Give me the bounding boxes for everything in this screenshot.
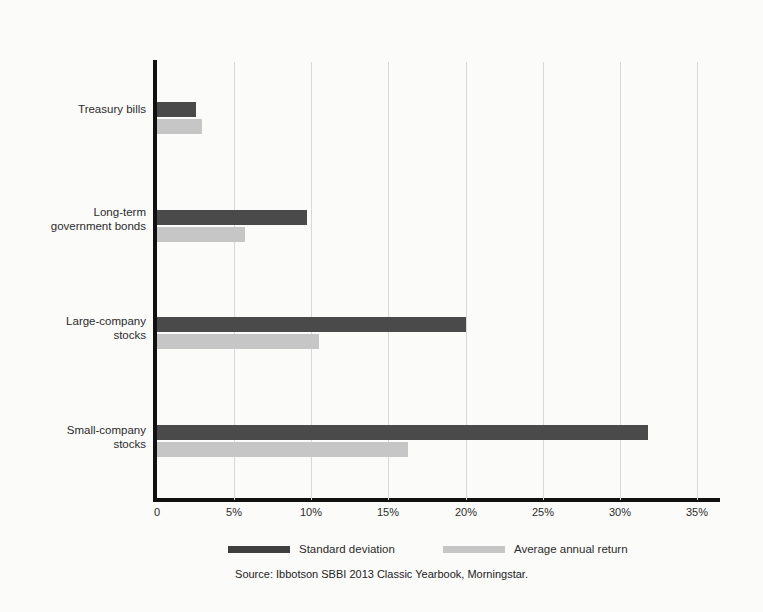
x-tick-20: 20% bbox=[455, 506, 477, 518]
category-label-treasury-bills: Treasury bills bbox=[26, 102, 146, 116]
legend-swatch-average-annual-return bbox=[443, 546, 505, 553]
x-tick-25: 25% bbox=[532, 506, 554, 518]
legend-label-standard-deviation: Standard deviation bbox=[299, 543, 395, 555]
legend-item-standard-deviation[interactable]: Standard deviation bbox=[228, 543, 395, 555]
x-tick-15: 15% bbox=[377, 506, 399, 518]
bar-standard-deviation-long-term-government-bonds[interactable] bbox=[157, 210, 307, 225]
legend-swatch-standard-deviation bbox=[228, 546, 290, 553]
bar-average-annual-return-long-term-government-bonds[interactable] bbox=[157, 227, 245, 242]
plot-area bbox=[157, 62, 697, 500]
bar-standard-deviation-large-company-stocks[interactable] bbox=[157, 317, 466, 332]
gridline-35 bbox=[697, 62, 698, 500]
legend-label-average-annual-return: Average annual return bbox=[514, 543, 628, 555]
chart-page: Treasury bills Long-term government bond… bbox=[0, 0, 763, 612]
category-label-small-company-stocks: Small-company stocks bbox=[26, 423, 146, 451]
x-tick-30: 30% bbox=[609, 506, 631, 518]
category-label-large-company-stocks: Large-company stocks bbox=[26, 314, 146, 342]
bar-average-annual-return-small-company-stocks[interactable] bbox=[157, 442, 408, 457]
bar-standard-deviation-treasury-bills[interactable] bbox=[157, 102, 196, 117]
source-note: Source: Ibbotson SBBI 2013 Classic Yearb… bbox=[0, 568, 763, 580]
bar-average-annual-return-treasury-bills[interactable] bbox=[157, 119, 202, 134]
legend-item-average-annual-return[interactable]: Average annual return bbox=[443, 543, 628, 555]
category-label-long-term-government-bonds: Long-term government bonds bbox=[26, 205, 146, 233]
bar-average-annual-return-large-company-stocks[interactable] bbox=[157, 334, 319, 349]
x-tick-0: 0 bbox=[154, 506, 160, 518]
category-axis-labels: Treasury bills Long-term government bond… bbox=[18, 0, 146, 612]
chart-legend: Standard deviation Average annual return bbox=[0, 543, 763, 563]
x-tick-10: 10% bbox=[300, 506, 322, 518]
x-tick-35: 35% bbox=[686, 506, 708, 518]
x-tick-5: 5% bbox=[226, 506, 242, 518]
bar-standard-deviation-small-company-stocks[interactable] bbox=[157, 425, 648, 440]
